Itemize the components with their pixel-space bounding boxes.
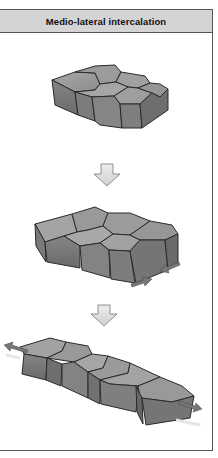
motion-trail-left (6, 355, 20, 358)
diagram-canvas (0, 0, 218, 458)
stage-3-cell-row (20, 338, 194, 425)
motion-trail-right (176, 420, 200, 425)
stage-2-cell-block (35, 207, 178, 283)
transition-arrow-2 (91, 305, 117, 326)
transition-arrow-1 (94, 164, 120, 186)
stage-1-cell-block (52, 65, 168, 128)
